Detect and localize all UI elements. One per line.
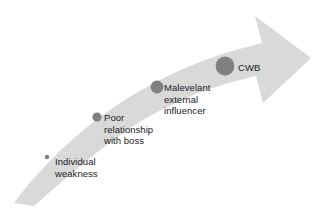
stage-label-line: CWB [238,62,260,74]
stage-marker-poor-relationship [92,112,101,121]
stage-label-line: with boss [104,135,153,147]
escalation-diagram: Individual weakness Poor relationship wi… [0,0,321,208]
stage-label-line: Malevelant [164,82,210,94]
stage-label-line: external [164,94,210,106]
stage-label-line: Poor [104,112,153,124]
stage-label-line: weakness [55,168,98,180]
stage-label-malevolent-influencer: Malevelant external influencer [164,82,210,117]
stage-label-line: Individual [55,156,98,168]
stage-marker-cwb [216,57,235,76]
stage-marker-malevolent-influencer [151,81,164,94]
stage-marker-layer [0,0,321,208]
stage-label-cwb: CWB [238,62,260,74]
stage-label-individual-weakness: Individual weakness [55,156,98,179]
stage-label-poor-relationship: Poor relationship with boss [104,112,153,147]
stage-marker-individual-weakness [45,155,49,159]
stage-label-line: relationship [104,124,153,136]
stage-label-line: influencer [164,105,210,117]
